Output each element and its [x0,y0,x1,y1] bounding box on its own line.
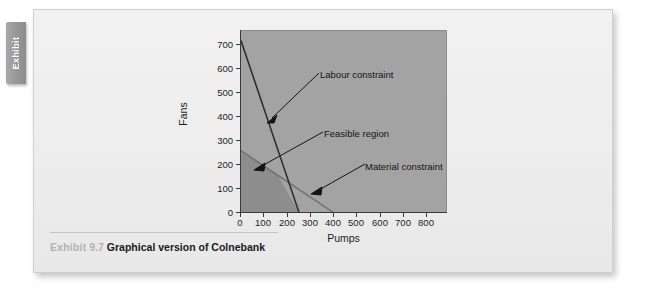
plot-area [241,30,447,213]
x-axis-line [240,212,447,213]
plot-graphics [241,31,446,213]
x-tick-label-800: 800 [406,218,446,228]
y-axis-line [240,30,241,213]
y-tick-100 [236,188,240,189]
feasible-region-label: Feasible region [324,128,389,139]
caption-text: Graphical version of Colnebank [107,241,265,253]
labour-constraint-label: Labour constraint [320,69,393,80]
exhibit-side-tab: Exhibit [6,22,26,84]
y-tick-label-0: 0 [193,208,233,218]
y-tick-400 [236,116,240,117]
caption-prefix: Exhibit [50,241,86,253]
y-tick-500 [236,92,240,93]
y-tick-label-600: 600 [193,64,233,74]
x-axis-title: Pumps [240,232,447,244]
y-tick-label-200: 200 [193,160,233,170]
material-constraint-label: Material constraint [365,161,443,172]
y-tick-label-400: 400 [193,112,233,122]
screenshot-root: Exhibit [0,0,649,300]
y-tick-label-100: 100 [193,184,233,194]
y-tick-200 [236,164,240,165]
caption-number: 9.7 [89,241,104,253]
caption: Exhibit 9.7 Graphical version of Colneba… [50,241,265,253]
exhibit-card: 0 100 200 300 400 500 [33,9,613,273]
y-tick-300 [236,140,240,141]
y-axis-title: Fans [177,102,189,125]
y-tick-label-500: 500 [193,88,233,98]
y-tick-label-300: 300 [193,136,233,146]
chart-container: 0 100 200 300 400 500 [189,18,479,243]
y-tick-600 [236,68,240,69]
exhibit-side-tab-label: Exhibit [11,37,21,70]
y-tick-label-700: 700 [193,40,233,50]
caption-divider [50,232,278,233]
y-tick-700 [236,44,240,45]
